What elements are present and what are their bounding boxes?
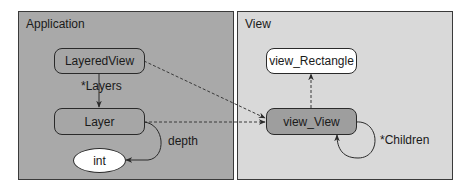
application-panel: Application bbox=[18, 11, 234, 180]
viewview-label: view_View bbox=[283, 115, 339, 129]
view-panel-title: View bbox=[245, 17, 271, 31]
children-edge-label: *Children bbox=[380, 133, 429, 147]
viewrectangle-label: view_Rectangle bbox=[269, 54, 354, 68]
int-label: int bbox=[93, 154, 106, 168]
layer-node: Layer bbox=[54, 108, 145, 135]
application-panel-title: Application bbox=[26, 17, 85, 31]
viewrectangle-node: view_Rectangle bbox=[266, 48, 357, 74]
depth-edge-label: depth bbox=[168, 134, 198, 148]
layer-label: Layer bbox=[84, 115, 114, 129]
viewview-node: view_View bbox=[266, 108, 357, 135]
int-node: int bbox=[73, 148, 126, 173]
layeredview-node: LayeredView bbox=[54, 48, 145, 74]
layers-edge-label: *Layers bbox=[81, 79, 122, 93]
view-panel: View bbox=[237, 11, 453, 180]
layeredview-label: LayeredView bbox=[65, 54, 134, 68]
